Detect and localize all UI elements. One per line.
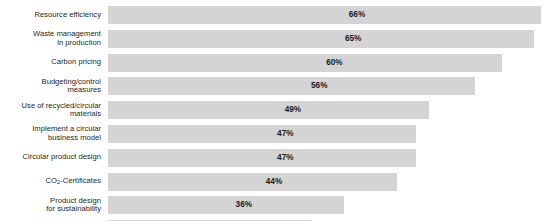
bar-value-label: 49% [285, 101, 301, 119]
subscript-glyph: 2 [57, 179, 60, 185]
chart-row: Circular product design47% [0, 149, 560, 167]
bar-track: 47% [108, 149, 560, 167]
bar [108, 173, 397, 191]
chart-row: Budgeting/control measures56% [0, 77, 560, 95]
category-label: Circular product design [0, 153, 108, 162]
bar [108, 149, 416, 167]
chart-row: Resource efficiency66% [0, 6, 560, 24]
bar [108, 77, 475, 95]
category-label: Waste management in production [0, 30, 108, 47]
category-label: Carbon pricing [0, 58, 108, 67]
category-label: Budgeting/control measures [0, 78, 108, 95]
bar [108, 30, 534, 48]
bar [108, 101, 429, 119]
bar-value-label: 60% [326, 54, 342, 72]
bar [108, 54, 502, 72]
category-label: Implement a circular business model [0, 125, 108, 142]
chart-row: Carbon pricing60% [0, 54, 560, 72]
bar [108, 125, 416, 143]
bar-value-label: 65% [345, 30, 361, 48]
bar-value-label: 44% [266, 173, 282, 191]
chart-row: CO2-Certificates44% [0, 173, 560, 191]
category-label: Product design for sustainability [0, 197, 108, 214]
bar-track: 60% [108, 54, 560, 72]
bar-track: 44% [108, 173, 560, 191]
bar [108, 6, 541, 24]
bar [108, 196, 344, 214]
chart-row: Implement a circular business model47% [0, 125, 560, 143]
bar [108, 220, 311, 221]
bar-track: 47% [108, 125, 560, 143]
chart-rows: Resource efficiency66%Waste management i… [0, 6, 560, 221]
horizontal-bar-chart: Resource efficiency66%Waste management i… [0, 0, 560, 221]
bar-value-label: 31% [217, 220, 233, 221]
bar-value-label: 56% [311, 77, 327, 95]
chart-row: Product design for sustainability36% [0, 196, 560, 214]
bar-track: 36% [108, 196, 560, 214]
bar-value-label: 36% [236, 196, 252, 214]
category-label: CO2-Certificates [0, 177, 108, 187]
bar-value-label: 47% [277, 125, 293, 143]
chart-row: Replenishment control according to deman… [0, 220, 560, 221]
bar-track: 49% [108, 101, 560, 119]
chart-row: Use of recycled/circular materials49% [0, 101, 560, 119]
category-label: Use of recycled/circular materials [0, 102, 108, 119]
bar-track: 31% [108, 220, 560, 221]
chart-row: Waste management in production65% [0, 30, 560, 48]
bar-track: 56% [108, 77, 560, 95]
category-label: Resource efficiency [0, 11, 108, 20]
bar-track: 66% [108, 6, 560, 24]
bar-track: 65% [108, 30, 560, 48]
bar-value-label: 66% [349, 6, 365, 24]
bar-value-label: 47% [277, 149, 293, 167]
